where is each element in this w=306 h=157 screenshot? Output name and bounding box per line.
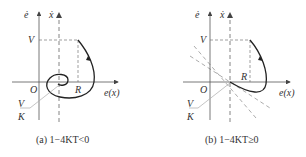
ratio-numerator: V [18, 98, 26, 109]
e-dot-label: ė [24, 9, 29, 20]
ratio-numerator: V [187, 98, 195, 109]
ratio-denominator: K [17, 111, 26, 122]
r-label: R [240, 71, 247, 82]
origin-label: O [200, 84, 207, 95]
x-dot-arrow-icon [56, 12, 62, 18]
x-axis-label: e(x) [279, 87, 295, 99]
v-label: V [28, 34, 36, 45]
r-label: R [74, 84, 81, 95]
v-label: V [200, 34, 208, 45]
caption-a: (a) 1−4KT<0 [36, 134, 89, 146]
x-dot-label: ẋ [219, 9, 225, 20]
caption-b: (b) 1−4KT≥0 [205, 134, 259, 146]
e-dot-label: ė [195, 9, 200, 20]
origin-label: O [30, 84, 37, 95]
vk-leader-line [189, 83, 230, 108]
ratio-denominator: K [186, 111, 195, 122]
x-dot-arrow-icon [227, 12, 233, 18]
node-trajectory [230, 40, 266, 92]
panel-b: ė ẋ V O R e(x) V K (b) 1−4KT≥0 [183, 9, 295, 146]
panel-a: ė ẋ V O R e(x) V K (a) 1−4KT<0 [12, 9, 120, 146]
x-dot-label: ẋ [48, 9, 54, 20]
x-axis-label: e(x) [104, 87, 120, 99]
phase-plane-diagram: ė ẋ V O R e(x) V K (a) 1−4KT<0 ė ẋ V O [0, 0, 306, 157]
